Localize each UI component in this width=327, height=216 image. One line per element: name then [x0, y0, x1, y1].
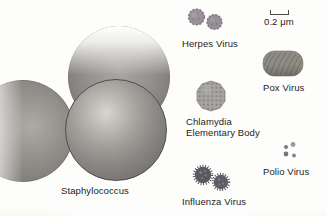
- influenza-virus-illustration: [191, 163, 233, 196]
- staphylococcus-cell-left: [0, 80, 74, 182]
- scale-bar-label: 0.2 μm: [264, 16, 294, 27]
- label-herpes-virus: Herpes Virus: [182, 38, 238, 49]
- sphere-fade-overlay: [0, 80, 74, 182]
- scale-bar: [270, 10, 289, 15]
- pox-virus-illustration: [262, 49, 304, 78]
- microorganism-size-diagram: Staphylococcus Herpes Virus 0.2 μm: [0, 0, 327, 216]
- label-chlamydia-line1: Chlamydia: [186, 116, 232, 127]
- label-staphylococcus: Staphylococcus: [61, 185, 129, 196]
- label-influenza-virus: Influenza Virus: [182, 196, 246, 207]
- label-chlamydia-line2: Elementary Body: [186, 127, 260, 138]
- label-polio-virus: Polio Virus: [263, 166, 309, 177]
- staphylococcus-cell-front: [65, 79, 167, 181]
- chlamydia-elementary-body-illustration: [194, 78, 228, 114]
- label-pox-virus: Pox Virus: [263, 82, 304, 93]
- herpes-virus-illustration: [185, 6, 225, 34]
- polio-virus-illustration: [282, 141, 298, 159]
